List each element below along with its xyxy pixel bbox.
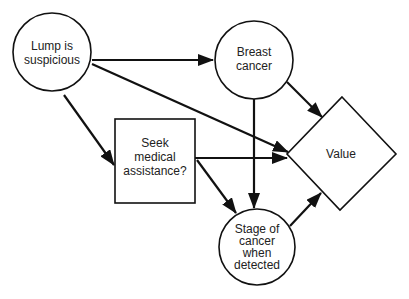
node-label: suspicious [24,53,80,67]
node-lump-is-suspicious: Lump is suspicious [13,13,91,91]
node-label: cancer [236,59,272,73]
node-stage-of-cancer-when-detected: Stage of cancer when detected [219,209,295,285]
node-label: Breast [237,45,272,59]
edge-seek-to-stage [197,160,236,213]
influence-diagram: Lump is suspicious Breast cancer Seek me… [0,0,409,299]
node-label: Lump is [31,39,73,53]
node-label: medical [134,150,175,164]
edge-lump-to-seek [64,95,114,165]
edge-breast-to-value [287,82,322,117]
edge-stage-to-value [290,193,321,226]
node-label: Value [326,147,356,161]
node-label: Seek [141,136,169,150]
node-breast-cancer: Breast cancer [215,21,293,99]
node-value: Value [287,97,396,210]
node-seek-medical-assistance: Seek medical assistance? [115,119,195,203]
node-label: detected [234,258,280,272]
node-label: assistance? [123,164,187,178]
